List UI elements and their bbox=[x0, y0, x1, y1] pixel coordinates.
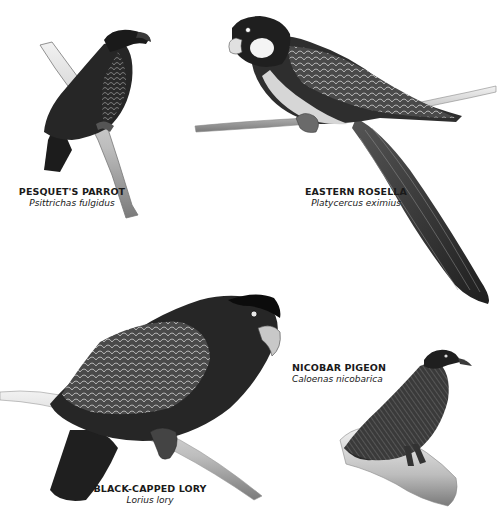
common-name: BLACK-CAPPED LORY bbox=[88, 484, 212, 495]
black-capped-lory-illustration bbox=[0, 294, 280, 500]
common-name: EASTERN ROSELLA bbox=[296, 187, 416, 198]
latin-name: Lorius lory bbox=[88, 495, 212, 505]
eastern-rosella-illustration bbox=[195, 16, 496, 304]
common-name: NICOBAR PIGEON bbox=[292, 363, 392, 374]
tail bbox=[352, 118, 489, 304]
bird-illustrations bbox=[0, 0, 499, 519]
caption-black-capped-lory: BLACK-CAPPED LORY Lorius lory bbox=[88, 484, 212, 505]
caption-nicobar-pigeon: NICOBAR PIGEON Caloenas nicobarica bbox=[292, 363, 392, 384]
caption-eastern-rosella: EASTERN ROSELLA Platycercus eximius bbox=[296, 187, 416, 208]
caption-pesquets-parrot: PESQUET'S PARROT Psittrichas fulgidus bbox=[12, 187, 132, 208]
latin-name: Caloenas nicobarica bbox=[292, 374, 392, 384]
common-name: PESQUET'S PARROT bbox=[12, 187, 132, 198]
latin-name: Platycercus eximius bbox=[296, 198, 416, 208]
bird-illustration-plate: PESQUET'S PARROT Psittrichas fulgidus EA… bbox=[0, 0, 499, 519]
latin-name: Psittrichas fulgidus bbox=[12, 198, 132, 208]
